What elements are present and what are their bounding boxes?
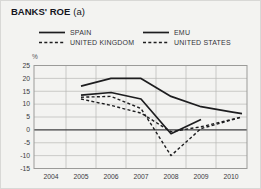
svg-text:10: 10 [22,100,30,107]
svg-text:2009: 2009 [193,173,208,180]
svg-text:20: 20 [22,75,30,82]
svg-text:25: 25 [22,62,30,69]
svg-text:2008: 2008 [163,173,178,180]
svg-text:-15: -15 [20,165,30,172]
svg-text:2004: 2004 [43,173,58,180]
svg-text:2010: 2010 [223,173,238,180]
svg-text:5: 5 [26,113,30,120]
roe-line-chart: 2520151050-5-10-152004200520062007200820… [1,1,261,189]
svg-text:2007: 2007 [133,173,148,180]
svg-text:-10: -10 [20,152,30,159]
y-tick-labels: 2520151050-5-10-15 [20,62,30,172]
svg-text:15: 15 [22,88,30,95]
svg-text:0: 0 [26,126,30,133]
svg-text:2006: 2006 [103,173,118,180]
svg-text:2005: 2005 [73,173,88,180]
svg-text:-5: -5 [24,139,30,146]
roe-chart-panel: BANKS' ROE(a) SPAINEMUUNITED KINGDOMUNIT… [0,0,261,189]
series-emu [81,93,201,134]
x-tick-labels: 2004200520062007200820092010 [43,173,238,180]
